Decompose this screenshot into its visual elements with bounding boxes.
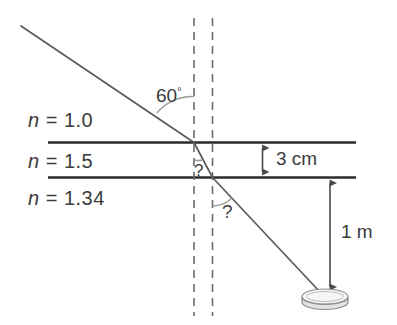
angle-value-incident: 60 (156, 85, 177, 106)
dimension-label-thickness: 3 cm (276, 149, 317, 168)
refractive-index-symbol: n (28, 109, 40, 131)
dimension-label-depth: 1 m (341, 222, 373, 241)
degree-symbol-icon: ° (177, 85, 181, 97)
refracted-ray-in-water (213, 178, 321, 293)
equals-sign: = (40, 150, 64, 172)
refractive-index-symbol: n (28, 187, 40, 209)
coin (302, 289, 348, 310)
angle-label-incident: 60° (156, 86, 182, 105)
medium-label-glass: n = 1.5 (28, 151, 93, 171)
angle-label-refracted-in-water: ? (222, 202, 233, 221)
medium-label-water: n = 1.34 (28, 188, 105, 208)
refraction-diagram: n = 1.0 n = 1.5 n = 1.34 60° ? ? 3 cm 1 … (0, 0, 397, 325)
angle-label-refracted-in-glass: ? (194, 162, 203, 179)
refractive-index-value-water: 1.34 (64, 187, 105, 209)
refractive-index-value-glass: 1.5 (64, 150, 93, 172)
equals-sign: = (40, 187, 64, 209)
refractive-index-value-air: 1.0 (64, 109, 93, 131)
medium-label-air: n = 1.0 (28, 110, 93, 130)
equals-sign: = (40, 109, 64, 131)
refractive-index-symbol: n (28, 150, 40, 172)
